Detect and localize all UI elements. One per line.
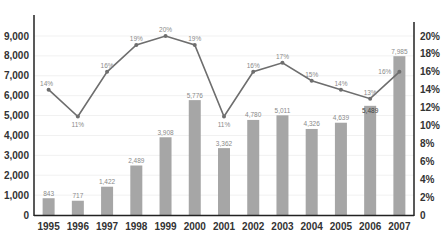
x-tick-label: 2004 [301, 221, 324, 232]
x-tick-label: 2000 [184, 221, 207, 232]
x-tick-label: 1997 [96, 221, 119, 232]
line-value-label: 14% [334, 80, 347, 87]
bar-value-label: 3,908 [157, 129, 174, 136]
bar-value-label: 5,011 [275, 107, 291, 114]
x-tick-label: 2001 [213, 221, 236, 232]
right-tick-label: 18% [420, 48, 440, 59]
bar [189, 100, 201, 215]
right-tick-label: 16% [420, 66, 440, 77]
x-tick-label: 2007 [388, 221, 411, 232]
x-tick-label: 1995 [37, 221, 60, 232]
left-tick-label: 5,000 [4, 110, 29, 121]
line-point [193, 43, 197, 47]
x-tick-label: 1996 [67, 221, 90, 232]
x-tick-label: 2006 [359, 221, 382, 232]
bar [247, 120, 259, 215]
right-tick-label: 8% [420, 138, 435, 149]
left-tick-label: 0 [23, 210, 29, 221]
line-value-label: 16% [101, 62, 114, 69]
right-tick-label: 10% [420, 120, 440, 131]
line-point [368, 97, 372, 101]
right-axis-ticks: 02%4%6%8%10%12%14%16%18%20% [420, 31, 440, 221]
line-value-label: 19% [188, 35, 201, 42]
x-tick-label: 2002 [242, 221, 265, 232]
bar [393, 56, 405, 215]
bar-value-label: 4,780 [245, 111, 262, 118]
line-value-label: 20% [159, 26, 172, 33]
line-point [310, 79, 314, 83]
line-point [47, 88, 51, 92]
line-point [134, 43, 138, 47]
line-value-label: 17% [276, 53, 289, 60]
x-axis-ticks: 1995199619971998199920002001200220032004… [37, 221, 410, 232]
bar [101, 187, 113, 215]
line-value-label: 16% [378, 68, 391, 75]
bar-value-label: 2,489 [128, 157, 145, 164]
bar-value-label: 4,326 [304, 120, 321, 127]
left-tick-label: 1,000 [4, 190, 29, 201]
bar-value-label: 3,362 [216, 140, 233, 147]
right-tick-label: 2% [420, 192, 435, 203]
left-axis-ticks: 01,0002,0003,0004,0005,0006,0007,0008,00… [4, 31, 29, 221]
line-value-label: 11% [72, 121, 85, 128]
line-value-label: 11% [218, 121, 231, 128]
left-tick-label: 6,000 [4, 90, 29, 101]
bar [130, 165, 142, 215]
line-point [251, 70, 255, 74]
right-tick-label: 0 [420, 210, 426, 221]
right-tick-label: 6% [420, 156, 435, 167]
x-tick-label: 1998 [125, 221, 148, 232]
bar [218, 148, 230, 215]
line-value-label: 13% [364, 89, 377, 96]
left-tick-label: 4,000 [4, 130, 29, 141]
bar-value-label: 4,639 [333, 114, 350, 121]
line-value-labels: 14%11%16%19%20%19%11%16%17%15%14%13%16% [40, 26, 391, 128]
bar [335, 123, 347, 215]
right-tick-label: 12% [420, 102, 440, 113]
left-tick-label: 9,000 [4, 31, 29, 42]
bar [306, 129, 318, 215]
bar-value-label: 717 [72, 192, 83, 199]
x-tick-label: 2005 [330, 221, 353, 232]
line-value-label: 14% [40, 80, 53, 87]
line-value-label: 16% [247, 62, 260, 69]
line-point [76, 115, 80, 119]
line-point [105, 70, 109, 74]
bar [364, 106, 376, 215]
bar-value-label: 5,776 [187, 92, 204, 99]
line-value-label: 15% [305, 71, 318, 78]
line-point [222, 115, 226, 119]
bar-value-label: 7,985 [391, 48, 408, 55]
bar-value-label: 1,422 [99, 178, 116, 185]
right-tick-label: 14% [420, 84, 440, 95]
line-point [397, 70, 401, 74]
combo-chart: 8437171,4222,4893,9085,7763,3624,7805,01… [0, 0, 443, 242]
bar [43, 198, 55, 215]
bar [276, 115, 288, 215]
bar-value-label: 843 [43, 190, 54, 197]
right-tick-label: 20% [420, 31, 440, 42]
line-point [280, 61, 284, 65]
line-point [339, 88, 343, 92]
bar [72, 201, 84, 215]
bar-value-label: 5,489 [362, 107, 379, 114]
right-tick-label: 4% [420, 174, 435, 185]
x-tick-label: 1999 [154, 221, 177, 232]
line-point [164, 34, 168, 38]
left-tick-label: 8,000 [4, 50, 29, 61]
bar [160, 137, 172, 215]
line-value-label: 19% [130, 35, 143, 42]
left-tick-label: 2,000 [4, 170, 29, 181]
left-tick-label: 7,000 [4, 70, 29, 81]
x-tick-label: 2003 [271, 221, 294, 232]
left-tick-label: 3,000 [4, 150, 29, 161]
